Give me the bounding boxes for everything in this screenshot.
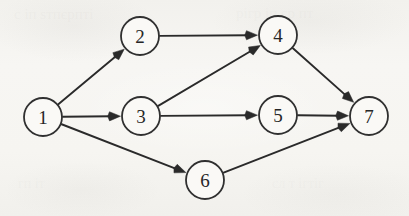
- node-label: 7: [364, 106, 374, 127]
- arrowhead-icon: [174, 164, 186, 173]
- nodes-group: 1234567: [24, 16, 388, 199]
- edge-line: [160, 35, 248, 36]
- graph-node-3[interactable]: 3: [122, 97, 160, 135]
- arrowhead-icon: [336, 111, 349, 120]
- node-label: 4: [273, 25, 283, 46]
- edge-line: [158, 50, 252, 106]
- edge-line: [293, 48, 347, 96]
- edge-3-to-5: [161, 111, 258, 120]
- edge-line: [58, 55, 117, 104]
- edge-1-to-6: [62, 124, 186, 173]
- edge-5-to-7: [298, 111, 349, 120]
- edge-2-to-4: [160, 31, 258, 40]
- graph-node-1[interactable]: 1: [24, 98, 62, 136]
- graph-node-5[interactable]: 5: [259, 96, 297, 134]
- edge-1-to-3: [63, 112, 121, 121]
- node-label: 6: [200, 170, 210, 191]
- node-label: 2: [135, 26, 145, 47]
- node-label: 5: [273, 105, 283, 126]
- arrowhead-icon: [249, 45, 261, 55]
- graph-node-6[interactable]: 6: [186, 161, 224, 199]
- arrowhead-icon: [338, 123, 350, 132]
- graph-node-2[interactable]: 2: [121, 17, 159, 55]
- node-label: 1: [38, 107, 48, 128]
- edge-4-to-7: [293, 48, 354, 102]
- graph-node-7[interactable]: 7: [350, 97, 388, 135]
- directed-graph: 1234567: [0, 0, 409, 216]
- node-label: 3: [136, 106, 146, 127]
- arrowhead-icon: [245, 111, 258, 120]
- edge-3-to-4: [158, 45, 260, 105]
- edge-line: [161, 115, 248, 116]
- arrowhead-icon: [108, 112, 121, 121]
- edge-1-to-2: [58, 49, 124, 104]
- diagram-page: с іп ѕтпєрптірігр іп єр птгп ітсл т ігті…: [0, 0, 409, 216]
- edge-line: [63, 116, 111, 117]
- edges-group: [58, 31, 353, 173]
- graph-node-4[interactable]: 4: [259, 16, 297, 54]
- arrowhead-icon: [245, 31, 258, 40]
- edge-line: [62, 124, 178, 169]
